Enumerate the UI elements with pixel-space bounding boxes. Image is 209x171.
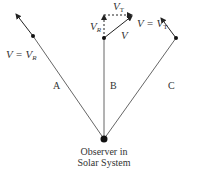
total-velocity-arrow [104,16,132,38]
observer-label-line1: Observer in [81,146,128,157]
transverse-label: VT [113,0,125,14]
path-label-a: A [53,80,61,91]
velocity-arrow-a [16,14,33,36]
path-a: V = VR A [6,14,104,139]
path-label-b: B [110,80,117,91]
velocity-label-c: V = VT [137,17,168,31]
star-dot-c [174,36,178,40]
observer-dot [101,136,108,143]
star-dot-b [102,36,106,40]
velocity-diagram: V = VR A VR VT V B V = VT C Observer in … [0,0,209,171]
line-a [33,36,104,139]
total-velocity-label: V [121,29,129,41]
star-dot-a [31,34,35,38]
observer-label-line2: Solar System [77,157,130,168]
path-b: VR VT V B [90,0,132,139]
path-label-c: C [168,80,175,91]
path-c: V = VT C [104,17,178,139]
radial-label: VR [90,20,102,34]
velocity-label-a: V = VR [6,48,37,62]
